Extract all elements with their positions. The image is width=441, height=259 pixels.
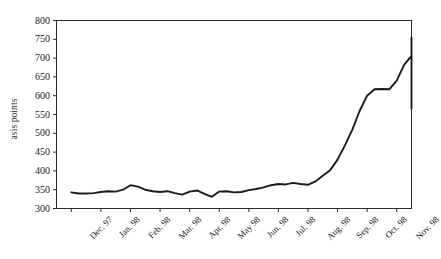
- y-axis-ticks: [53, 21, 57, 209]
- x-axis-ticks: [71, 209, 396, 213]
- data-series-line: [71, 37, 411, 196]
